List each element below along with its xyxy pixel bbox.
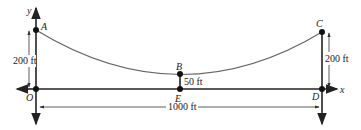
point-o xyxy=(33,86,39,92)
label-a: A xyxy=(40,21,48,32)
right-height-label: 200 ft xyxy=(325,53,349,64)
point-d xyxy=(319,86,325,92)
x-axis-label: x xyxy=(339,84,345,95)
y-axis-label: y xyxy=(26,5,32,16)
left-height-label: 200 ft xyxy=(13,55,37,66)
cable-diagram: x y A B C D E O 200 ft 200 ft 50 ft 1000… xyxy=(0,0,361,130)
label-d: D xyxy=(311,91,320,102)
sag-height-label: 50 ft xyxy=(184,76,203,87)
span-label: 1000 ft xyxy=(168,101,197,112)
point-a xyxy=(33,27,39,33)
point-c xyxy=(319,29,325,35)
label-o: O xyxy=(26,92,33,103)
label-c: C xyxy=(316,18,323,29)
label-b: B xyxy=(176,61,182,72)
point-e xyxy=(177,86,183,92)
